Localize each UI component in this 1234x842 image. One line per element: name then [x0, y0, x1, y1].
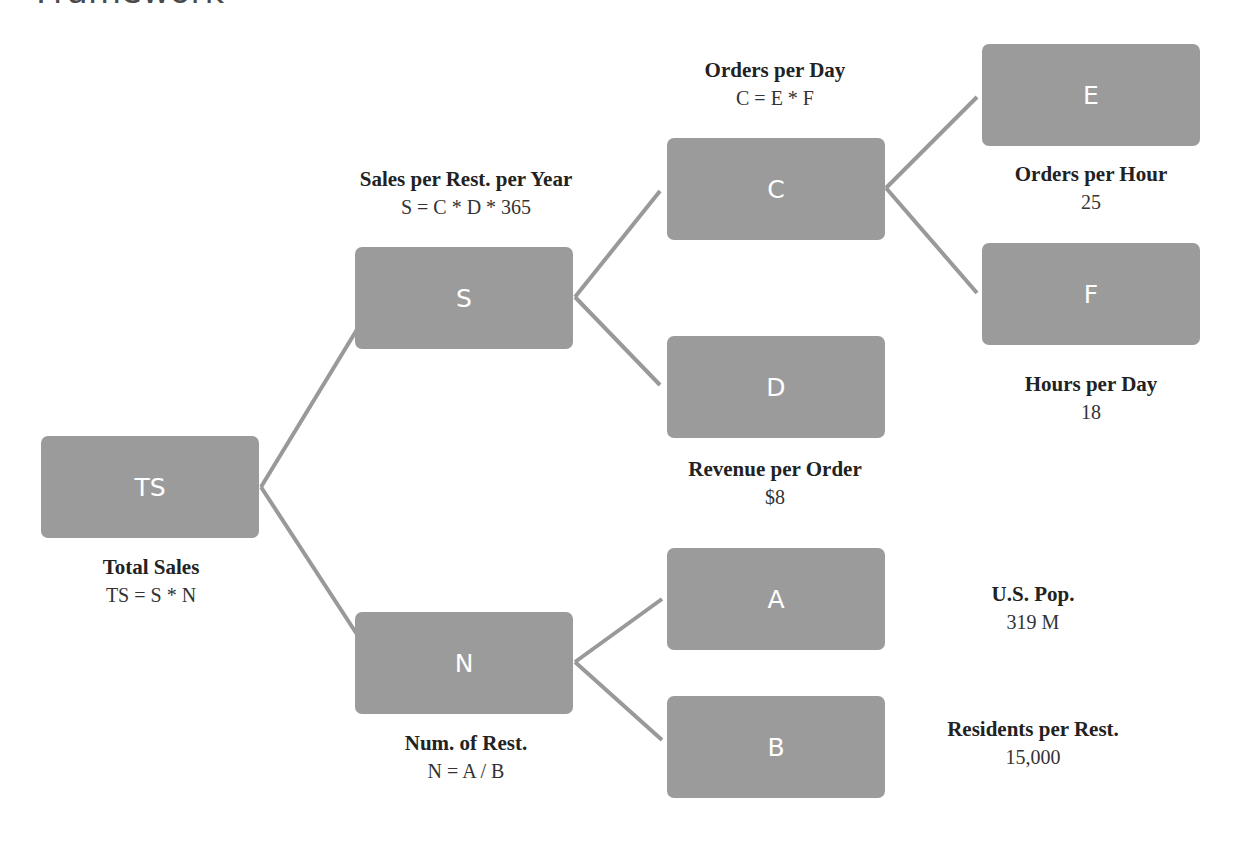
caption-e-value: 25 — [1015, 188, 1167, 216]
edge-c-e — [886, 97, 977, 188]
edge-c-f — [886, 188, 977, 293]
caption-n: Num. of Rest. N = A / B — [405, 729, 527, 785]
edge-s-c — [575, 191, 660, 297]
edge-s-d — [575, 297, 660, 385]
caption-e-title: Orders per Hour — [1015, 160, 1167, 188]
node-ts-label: TS — [134, 473, 165, 502]
node-d-label: D — [766, 373, 785, 402]
node-a: A — [667, 548, 885, 650]
node-b-label: B — [767, 733, 784, 762]
caption-e: Orders per Hour 25 — [1015, 160, 1167, 216]
node-e: E — [982, 44, 1200, 146]
caption-b-title: Residents per Rest. — [947, 715, 1119, 743]
caption-s-value: S = C * D * 365 — [360, 193, 573, 221]
node-s: S — [355, 247, 573, 349]
caption-s-title: Sales per Rest. per Year — [360, 165, 573, 193]
caption-c: Orders per Day C = E * F — [705, 56, 846, 112]
node-n-label: N — [455, 649, 474, 678]
caption-c-title: Orders per Day — [705, 56, 846, 84]
caption-a-title: U.S. Pop. — [992, 580, 1075, 608]
node-a-label: A — [767, 585, 784, 614]
caption-f: Hours per Day 18 — [1025, 370, 1158, 426]
caption-d-title: Revenue per Order — [688, 455, 861, 483]
caption-a-value: 319 M — [992, 608, 1075, 636]
caption-d: Revenue per Order $8 — [688, 455, 861, 511]
caption-s: Sales per Rest. per Year S = C * D * 365 — [360, 165, 573, 221]
caption-d-value: $8 — [688, 483, 861, 511]
node-b: B — [667, 696, 885, 798]
caption-f-value: 18 — [1025, 398, 1158, 426]
caption-n-title: Num. of Rest. — [405, 729, 527, 757]
node-ts: TS — [41, 436, 259, 538]
node-d: D — [667, 336, 885, 438]
caption-f-title: Hours per Day — [1025, 370, 1158, 398]
node-f: F — [982, 243, 1200, 345]
node-f-label: F — [1084, 280, 1098, 309]
node-c: C — [667, 138, 885, 240]
caption-a: U.S. Pop. 319 M — [992, 580, 1075, 636]
edge-n-a — [575, 599, 662, 662]
caption-b: Residents per Rest. 15,000 — [947, 715, 1119, 771]
caption-b-value: 15,000 — [947, 743, 1119, 771]
caption-ts-value: TS = S * N — [103, 581, 200, 609]
caption-ts: Total Sales TS = S * N — [103, 553, 200, 609]
caption-ts-title: Total Sales — [103, 553, 200, 581]
caption-c-value: C = E * F — [705, 84, 846, 112]
node-e-label: E — [1083, 81, 1099, 110]
edge-n-b — [575, 662, 662, 740]
node-s-label: S — [456, 284, 472, 313]
node-c-label: C — [767, 175, 784, 204]
framework-diagram: Framework TS S N C D A B — [0, 0, 1234, 842]
caption-n-value: N = A / B — [405, 757, 527, 785]
node-n: N — [355, 612, 573, 714]
